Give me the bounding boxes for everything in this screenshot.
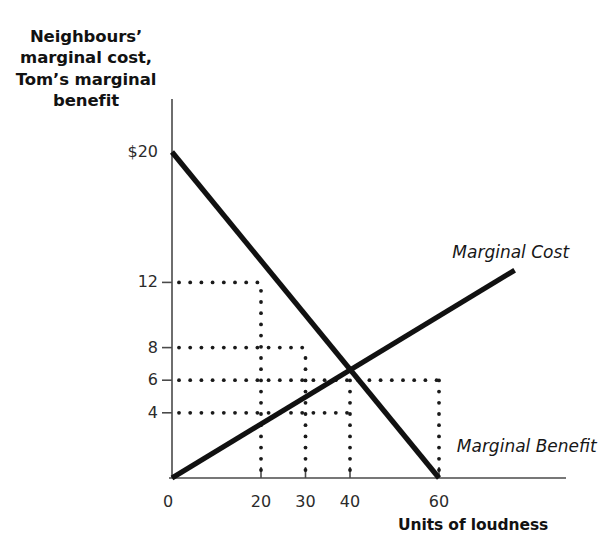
guide-line-horizontal-6 xyxy=(244,378,248,382)
guide-line-horizontal-6 xyxy=(188,378,192,382)
guide-line-horizontal-4 xyxy=(244,411,248,415)
guide-line-horizontal-4 xyxy=(289,411,293,415)
guide-line-vertical-20 xyxy=(259,300,263,304)
guide-line-vertical-60 xyxy=(437,457,441,461)
guide-line-vertical-20 xyxy=(259,289,263,293)
curve-label-marginal-benefit: Marginal Benefit xyxy=(457,436,597,456)
guide-line-horizontal-6 xyxy=(312,378,316,382)
guide-line-horizontal-6 xyxy=(424,378,428,382)
guide-line-horizontal-4 xyxy=(334,411,338,415)
guide-line-horizontal-12 xyxy=(177,281,181,285)
guide-line-vertical-40 xyxy=(348,379,352,383)
guide-line-horizontal-6 xyxy=(390,378,394,382)
guide-line-vertical-60 xyxy=(437,446,441,450)
guide-line-vertical-40 xyxy=(348,435,352,439)
x-tick-label-30: 30 xyxy=(286,492,326,511)
guide-line-horizontal-6 xyxy=(278,378,282,382)
x-tick-label-40: 40 xyxy=(330,492,370,511)
guide-line-horizontal-8 xyxy=(289,346,293,350)
guide-line-horizontal-8 xyxy=(267,346,271,350)
y-tick-label-12: 12 xyxy=(138,272,158,291)
guide-line-horizontal-6 xyxy=(368,378,372,382)
guide-line-vertical-60 xyxy=(437,412,441,416)
guide-line-vertical-60 xyxy=(437,435,441,439)
guide-line-vertical-20 xyxy=(259,468,263,472)
x-tick-label-60: 60 xyxy=(419,492,459,511)
guide-line-vertical-30 xyxy=(304,435,308,439)
y-tick-label-20: $20 xyxy=(127,142,158,161)
guide-line-vertical-20 xyxy=(259,323,263,327)
y-tick-label-6: 6 xyxy=(148,370,158,389)
guide-line-horizontal-4 xyxy=(177,411,181,415)
y-tick-label-8: 8 xyxy=(148,338,158,357)
guide-line-horizontal-8 xyxy=(278,346,282,350)
guide-line-horizontal-4 xyxy=(200,411,204,415)
guide-line-horizontal-6 xyxy=(200,378,204,382)
guide-line-vertical-30 xyxy=(304,412,308,416)
guide-line-vertical-30 xyxy=(304,379,308,383)
guide-line-horizontal-8 xyxy=(222,346,226,350)
curve-marginal-benefit xyxy=(172,152,439,478)
guide-line-horizontal-6 xyxy=(401,378,405,382)
guide-line-horizontal-12 xyxy=(222,281,226,285)
guide-line-vertical-30 xyxy=(304,390,308,394)
guide-line-horizontal-8 xyxy=(211,346,215,350)
guide-line-horizontal-8 xyxy=(300,346,304,350)
guide-line-horizontal-6 xyxy=(300,378,304,382)
guide-line-horizontal-12 xyxy=(233,281,237,285)
guide-line-vertical-20 xyxy=(259,412,263,416)
guide-line-horizontal-6 xyxy=(256,378,260,382)
guide-line-horizontal-6 xyxy=(177,378,181,382)
guide-line-vertical-30 xyxy=(304,356,308,360)
guide-line-vertical-20 xyxy=(259,379,263,383)
guide-line-vertical-20 xyxy=(259,367,263,371)
guide-line-vertical-40 xyxy=(348,468,352,472)
guide-line-vertical-30 xyxy=(304,367,308,371)
guide-line-horizontal-6 xyxy=(222,378,226,382)
guide-line-horizontal-12 xyxy=(256,281,260,285)
guide-line-vertical-40 xyxy=(348,412,352,416)
guide-line-vertical-20 xyxy=(259,435,263,439)
guide-line-vertical-30 xyxy=(304,468,308,472)
guide-line-horizontal-4 xyxy=(267,411,271,415)
guide-line-horizontal-4 xyxy=(188,411,192,415)
guide-line-horizontal-4 xyxy=(323,411,327,415)
guide-line-horizontal-8 xyxy=(200,346,204,350)
guide-line-horizontal-8 xyxy=(233,346,237,350)
guide-line-horizontal-6 xyxy=(267,378,271,382)
guide-line-vertical-20 xyxy=(259,334,263,338)
guide-line-vertical-30 xyxy=(304,423,308,427)
economics-graph-figure: Neighbours’ marginal cost, Tom’s margina… xyxy=(0,0,601,559)
guide-line-vertical-40 xyxy=(348,401,352,405)
guide-lines-layer xyxy=(177,281,441,472)
guide-line-vertical-40 xyxy=(348,423,352,427)
guide-line-horizontal-4 xyxy=(211,411,215,415)
plot-area xyxy=(0,0,601,559)
guide-line-vertical-20 xyxy=(259,446,263,450)
guide-line-vertical-20 xyxy=(259,345,263,349)
guide-line-vertical-20 xyxy=(259,457,263,461)
guide-line-vertical-60 xyxy=(437,401,441,405)
guide-line-vertical-20 xyxy=(259,356,263,360)
guide-line-horizontal-12 xyxy=(211,281,215,285)
guide-line-horizontal-12 xyxy=(244,281,248,285)
guide-line-vertical-40 xyxy=(348,457,352,461)
guide-line-vertical-60 xyxy=(437,423,441,427)
x-tick-label-0: 0 xyxy=(148,492,188,511)
guide-line-vertical-60 xyxy=(437,468,441,472)
guide-line-vertical-20 xyxy=(259,401,263,405)
guide-line-vertical-40 xyxy=(348,446,352,450)
guide-line-vertical-40 xyxy=(348,390,352,394)
guide-line-vertical-30 xyxy=(304,446,308,450)
guide-line-horizontal-4 xyxy=(222,411,226,415)
guide-line-horizontal-12 xyxy=(188,281,192,285)
guide-line-horizontal-6 xyxy=(412,378,416,382)
guide-line-horizontal-12 xyxy=(200,281,204,285)
guide-line-horizontal-4 xyxy=(312,411,316,415)
guide-line-horizontal-6 xyxy=(323,378,327,382)
guide-line-vertical-20 xyxy=(259,311,263,315)
guide-line-horizontal-4 xyxy=(256,411,260,415)
axes-layer xyxy=(162,99,566,478)
guide-line-horizontal-6 xyxy=(379,378,383,382)
guide-line-vertical-60 xyxy=(437,379,441,383)
